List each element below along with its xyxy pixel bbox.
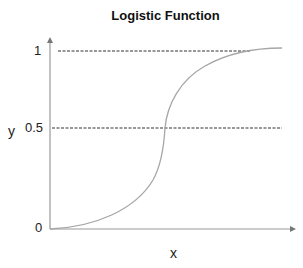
x-axis-label: x — [170, 246, 177, 260]
y-tick-1: 1 — [34, 44, 41, 57]
y-axis-label: y — [8, 124, 15, 138]
y-tick-0: 0 — [35, 221, 42, 234]
plot-area — [0, 0, 303, 268]
y-tick-0-5: 0.5 — [25, 121, 43, 134]
logistic-curve — [50, 48, 282, 229]
chart-root: Logistic Function 1 0.5 0 y x — [0, 0, 303, 268]
